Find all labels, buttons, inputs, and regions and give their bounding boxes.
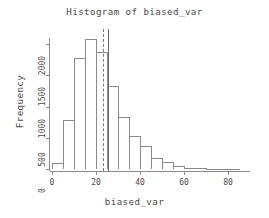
x-tick-label: 80 <box>223 178 233 187</box>
y-axis-line <box>49 38 50 171</box>
x-tick-label: 40 <box>135 178 145 187</box>
chart-title: Histogram of biased_var <box>0 6 269 17</box>
y-axis-label: Frequency <box>14 47 25 157</box>
x-tick-label: 20 <box>91 178 101 187</box>
median-line <box>103 29 104 171</box>
y-tick-label: 2000 <box>38 44 47 88</box>
x-tick-mark <box>96 172 97 175</box>
histogram-plot: Histogram of biased_var Frequency biased… <box>0 0 269 218</box>
mean-line <box>108 29 109 171</box>
x-tick-label: 0 <box>50 178 55 187</box>
x-tick-label: 60 <box>179 178 189 187</box>
x-axis-line <box>50 171 250 172</box>
histogram-bar <box>228 169 240 170</box>
x-tick-mark <box>228 172 229 175</box>
x-tick-mark <box>140 172 141 175</box>
x-tick-mark <box>184 172 185 175</box>
x-tick-mark <box>52 172 53 175</box>
